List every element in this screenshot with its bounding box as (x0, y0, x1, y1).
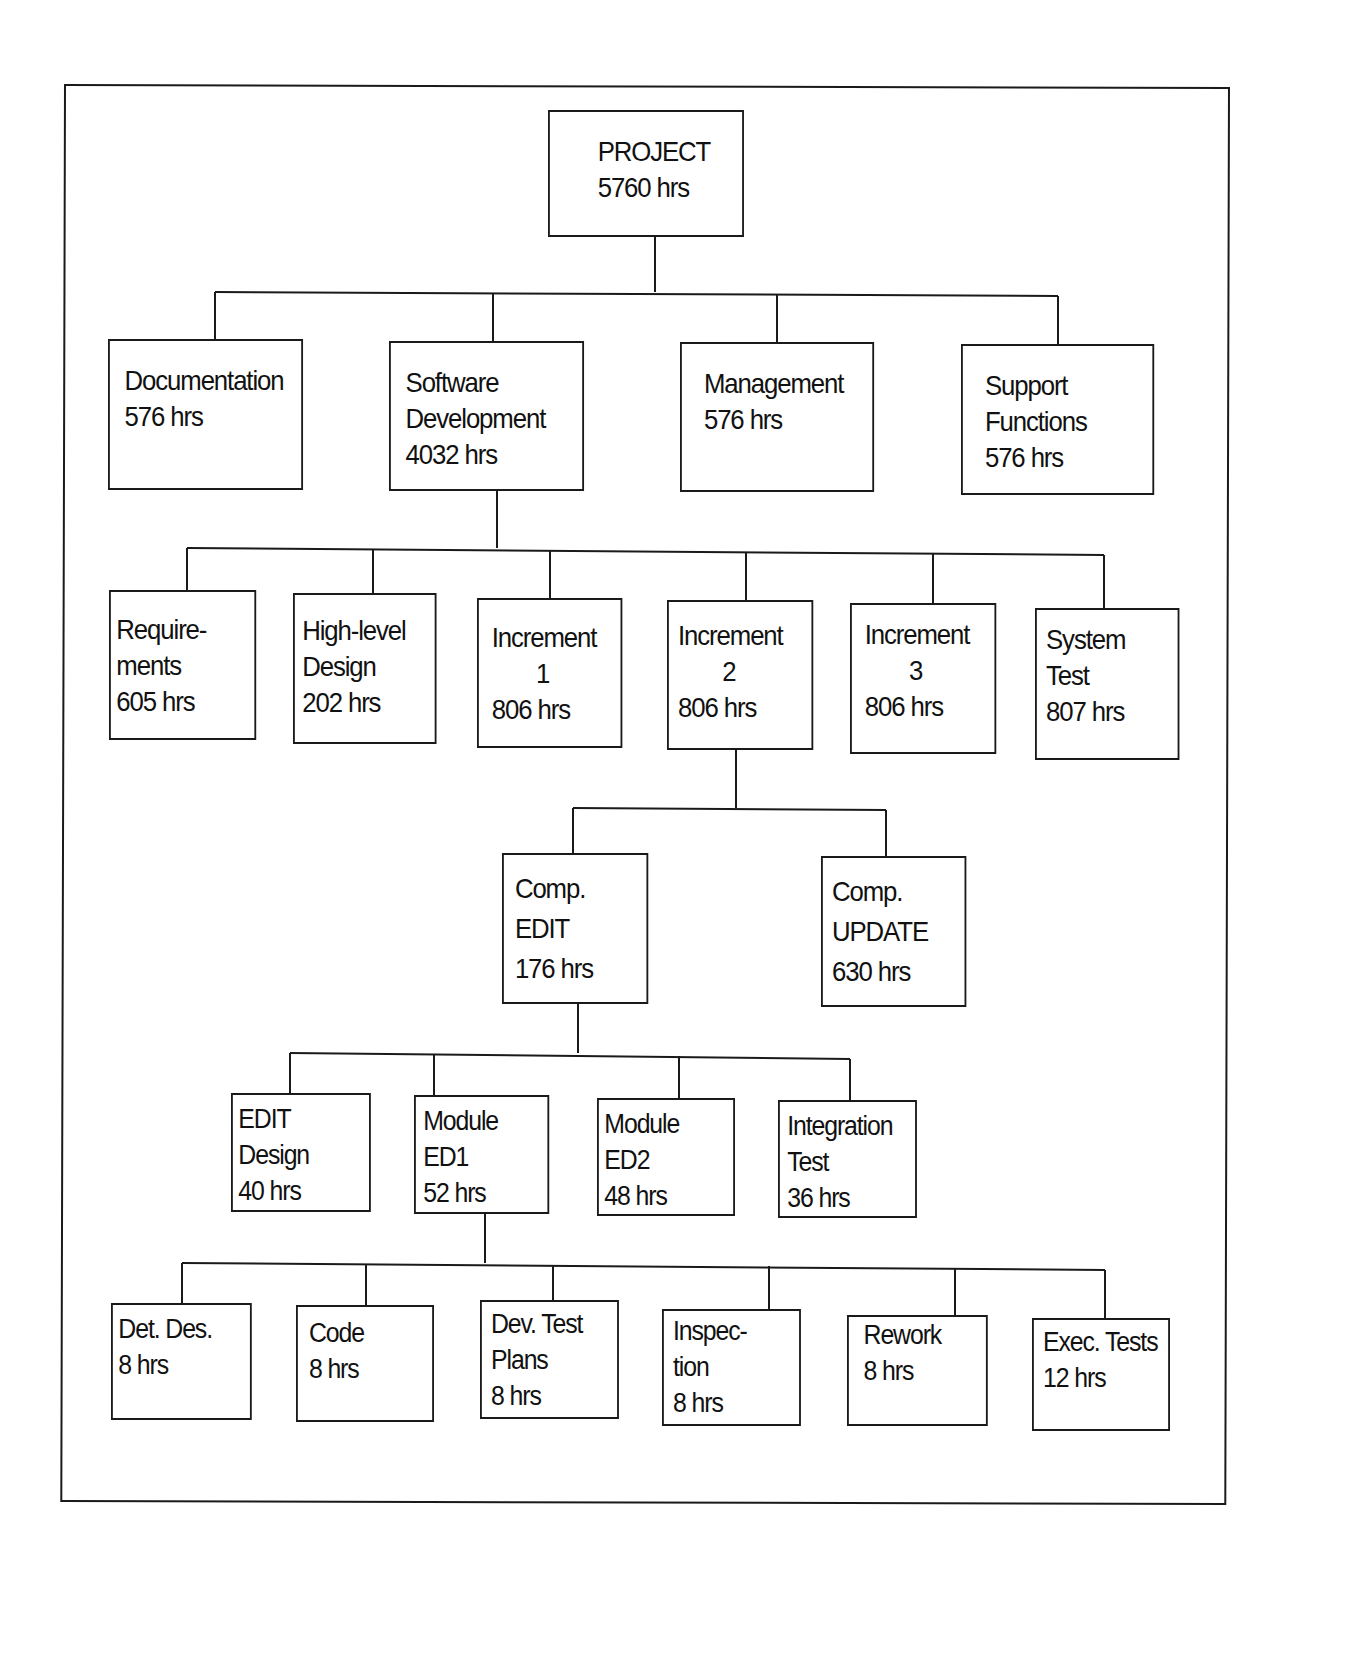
node-edit-design[interactable]: EDIT Design 40 hrs (231, 1093, 371, 1212)
node-hours: 576 hrs (125, 399, 296, 435)
node-label: Design (302, 649, 429, 685)
node-hours: 8 hrs (491, 1378, 612, 1414)
node-module-ed1[interactable]: Module ED1 52 hrs (414, 1095, 549, 1214)
node-label: Support (985, 368, 1147, 404)
node-hours: 202 hrs (302, 685, 429, 721)
node-integration-test[interactable]: Integration Test 36 hrs (778, 1100, 917, 1218)
node-label: PROJECT (598, 134, 737, 170)
node-label: Functions (985, 404, 1147, 440)
node-inspection[interactable]: Inspec- tion 8 hrs (662, 1309, 801, 1426)
node-hours: 8 hrs (118, 1347, 244, 1383)
node-hours: 807 hrs (1046, 694, 1172, 730)
node-hours: 40 hrs (238, 1173, 363, 1209)
node-label: Det. Des. (118, 1311, 244, 1347)
node-exec-tests[interactable]: Exec. Tests 12 hrs (1032, 1318, 1170, 1431)
node-label: Test (787, 1144, 909, 1180)
node-label: Software (406, 365, 577, 401)
node-label: Documentation (125, 363, 296, 399)
node-label: High-level (302, 613, 429, 649)
node-documentation[interactable]: Documentation 576 hrs (108, 339, 303, 490)
node-label: Rework (864, 1317, 981, 1353)
node-label: 2 (678, 654, 806, 690)
node-label: Increment (865, 617, 989, 653)
node-label: 1 (492, 656, 615, 692)
node-label: Comp. (832, 872, 959, 912)
node-comp-update[interactable]: Comp. UPDATE 630 hrs (821, 856, 966, 1007)
node-hours: 8 hrs (864, 1353, 981, 1389)
node-label: Module (604, 1106, 727, 1142)
node-dev-test-plans[interactable]: Dev. Test Plans 8 hrs (480, 1300, 619, 1419)
node-hours: 806 hrs (678, 690, 806, 726)
node-label: Require- (116, 612, 248, 648)
node-hours: 52 hrs (423, 1175, 542, 1211)
node-label: Test (1046, 658, 1172, 694)
node-hours: 36 hrs (787, 1180, 909, 1216)
node-label: System (1046, 622, 1172, 658)
node-label: tion (673, 1349, 794, 1385)
node-label: ments (116, 648, 248, 684)
node-det-des[interactable]: Det. Des. 8 hrs (111, 1303, 252, 1420)
node-label: ED2 (604, 1142, 727, 1178)
node-project[interactable]: PROJECT 5760 hrs (548, 110, 744, 237)
node-hours: 12 hrs (1043, 1360, 1163, 1396)
node-label: Development (406, 401, 577, 437)
node-system-test[interactable]: System Test 807 hrs (1035, 608, 1179, 760)
node-label: Design (238, 1137, 363, 1173)
node-hours: 630 hrs (832, 952, 959, 992)
node-requirements[interactable]: Require- ments 605 hrs (109, 590, 256, 740)
node-label: UPDATE (832, 912, 959, 952)
node-module-ed2[interactable]: Module ED2 48 hrs (597, 1098, 735, 1216)
node-label: Inspec- (673, 1313, 794, 1349)
node-label: Plans (491, 1342, 612, 1378)
node-label: EDIT (515, 909, 641, 949)
node-label: Integration (787, 1108, 909, 1144)
node-label: Increment (492, 620, 615, 656)
node-software-development[interactable]: Software Development 4032 hrs (389, 341, 584, 491)
node-hours: 176 hrs (515, 949, 641, 989)
node-increment-3[interactable]: Increment 3 806 hrs (850, 603, 996, 754)
node-label: Management (704, 366, 867, 402)
node-hours: 48 hrs (604, 1178, 727, 1214)
node-rework[interactable]: Rework 8 hrs (847, 1315, 988, 1426)
node-label: Dev. Test (491, 1306, 612, 1342)
node-increment-2[interactable]: Increment 2 806 hrs (667, 600, 813, 750)
diagram-frame (60, 84, 1230, 1505)
node-support-functions[interactable]: Support Functions 576 hrs (961, 344, 1154, 495)
node-label: Code (309, 1315, 427, 1351)
node-hours: 8 hrs (309, 1351, 427, 1387)
node-management[interactable]: Management 576 hrs (680, 342, 874, 492)
node-hours: 576 hrs (704, 402, 867, 438)
node-hours: 576 hrs (985, 440, 1147, 476)
node-hours: 605 hrs (116, 684, 248, 720)
node-hours: 5760 hrs (598, 170, 737, 206)
node-label: Increment (678, 618, 806, 654)
node-label: Comp. (515, 869, 641, 909)
node-hours: 4032 hrs (406, 437, 577, 473)
node-increment-1[interactable]: Increment 1 806 hrs (477, 598, 622, 748)
node-label: ED1 (423, 1139, 542, 1175)
node-label: EDIT (238, 1101, 363, 1137)
node-hours: 806 hrs (492, 692, 615, 728)
node-high-level-design[interactable]: High-level Design 202 hrs (293, 593, 437, 744)
node-code[interactable]: Code 8 hrs (296, 1305, 434, 1422)
node-label: 3 (865, 653, 989, 689)
node-hours: 806 hrs (865, 689, 989, 725)
node-comp-edit[interactable]: Comp. EDIT 176 hrs (502, 853, 648, 1004)
node-label: Module (423, 1103, 542, 1139)
node-label: Exec. Tests (1043, 1324, 1163, 1360)
node-hours: 8 hrs (673, 1385, 794, 1421)
